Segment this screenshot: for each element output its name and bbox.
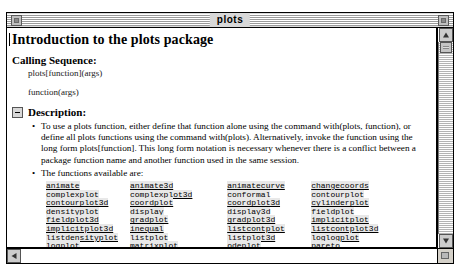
scroll-down-arrow[interactable] (439, 234, 453, 248)
vertical-scroll-thumb[interactable] (440, 42, 452, 53)
function-link-changecoords[interactable]: changecoords (311, 181, 369, 190)
description-bullet-1-text: To use a plots function, either define t… (41, 121, 430, 166)
zoom-box-icon[interactable] (438, 15, 449, 26)
horizontal-scrollbar[interactable] (7, 248, 437, 263)
collapse-toggle-icon[interactable] (12, 107, 23, 118)
horizontal-scroll-track[interactable] (21, 249, 437, 263)
function-link-coordplot[interactable]: coordplot (130, 198, 173, 207)
window-body: Introduction to the plots package Callin… (7, 28, 453, 263)
down-arrow-icon (443, 239, 449, 244)
function-link-animate[interactable]: animate (46, 181, 80, 190)
function-link-coordplot3d[interactable]: coordplot3d (227, 198, 280, 207)
close-box-icon[interactable] (11, 15, 22, 26)
function-link-logplot[interactable]: logplot (46, 241, 80, 248)
function-link-listcontplot[interactable]: listcontplot (227, 224, 285, 233)
description-header-row: Description: (12, 106, 430, 118)
function-table: animateanimate3danimatecurvechangecoords… (46, 182, 395, 248)
calling-sequence-line-2: function(args) (28, 86, 430, 98)
function-link-inequal[interactable]: inequal (130, 224, 164, 233)
window-title: plots (210, 13, 250, 27)
calling-sequence-line-1: plots[function](args) (28, 67, 430, 79)
bullet-dot-icon: • (32, 168, 41, 179)
left-arrow-icon (12, 253, 17, 259)
window-titlebar[interactable]: plots (7, 13, 453, 28)
resize-grow-icon[interactable] (437, 248, 453, 263)
function-link-animatecurve[interactable]: animatecurve (227, 181, 285, 190)
function-row: listdensityplotlistplotlistplot3dloglogp… (46, 234, 395, 243)
function-link-cylinderplot[interactable]: cylinderplot (311, 198, 369, 207)
description-bullet-1: • To use a plots function, either define… (32, 121, 430, 166)
function-link-implicitplot3d[interactable]: implicitplot3d (46, 224, 113, 233)
line-spacer (12, 79, 430, 86)
scroll-left-arrow[interactable] (7, 249, 21, 263)
up-arrow-icon (443, 33, 449, 38)
description-bullet-2: • The functions available are: (32, 168, 430, 179)
function-link-animate3d[interactable]: animate3d (130, 181, 173, 190)
calling-sequence-heading: Calling Sequence: (12, 54, 430, 66)
scroll-up-arrow[interactable] (439, 28, 453, 42)
function-link-listcontplot3d[interactable]: listcontplot3d (311, 224, 378, 233)
function-list: animateanimate3danimatecurvechangecoords… (46, 182, 430, 248)
description-bullet-2-text: The functions available are: (41, 168, 143, 179)
description-heading: Description: (28, 106, 86, 118)
document-content: Introduction to the plots package Callin… (7, 28, 437, 248)
page-title: Introduction to the plots package (12, 32, 430, 48)
function-link-odeplot[interactable]: odeplot (227, 241, 261, 248)
function-link-matrixplot[interactable]: matrixplot (130, 241, 178, 248)
plots-help-window: plots Introduction to the plots package … (6, 12, 454, 264)
vertical-scroll-track[interactable] (438, 42, 453, 234)
function-link-contourplot3d[interactable]: contourplot3d (46, 198, 108, 207)
vertical-scrollbar[interactable] (437, 28, 453, 248)
function-link-pareto[interactable]: pareto (311, 241, 340, 248)
bullet-dot-icon: • (32, 121, 41, 166)
